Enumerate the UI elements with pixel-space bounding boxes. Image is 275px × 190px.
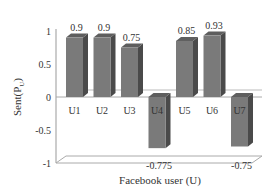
category-label: U1 [68,105,80,116]
value-label: 0.9 [98,22,111,33]
bar-U6 [204,32,226,97]
value-label: 0.9 [70,22,83,33]
category-label: U3 [123,105,135,116]
y-tick-label: 0 [46,92,51,103]
category-label: U5 [178,105,190,116]
value-label: 0.93 [205,20,223,31]
bar-U1 [66,34,88,97]
bar-U7 [231,93,253,147]
category-label: U4 [151,105,163,116]
category-label: U7 [233,105,245,116]
y-tick-label: -0.5 [35,125,51,136]
y-tick-label: 0.5 [39,59,52,70]
value-label: -0.75 [231,160,252,171]
x-axis-label: Facebook user (U) [119,174,201,187]
svg-text:Sent(PU): Sent(PU) [11,78,26,116]
value-label: 0.85 [178,25,196,36]
sentiment-bar-chart: 10.50-0.5-1 0.9U10.9U20.75U3-0.775U40.85… [0,0,275,190]
category-label: U2 [96,105,108,116]
y-tick-label: -1 [43,158,51,169]
y-tick-label: 1 [46,26,51,37]
value-label: -0.775 [146,160,172,171]
category-label: U6 [206,105,218,116]
bar-U2 [94,34,116,97]
bar-U3 [121,44,143,98]
value-label: 0.75 [123,32,141,43]
bar-U4 [149,93,171,148]
bar-U5 [176,37,198,97]
y-axis-label: Sent(PU) [11,78,26,116]
